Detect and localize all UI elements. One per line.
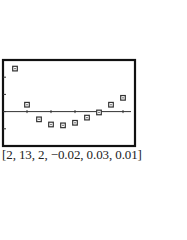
data-point-center <box>26 104 27 105</box>
data-point-center <box>122 97 123 98</box>
data-point-center <box>74 122 75 123</box>
frame-border <box>3 60 135 146</box>
data-point-center <box>86 117 87 118</box>
data-point-center <box>14 68 15 69</box>
window-settings-caption: [2, 13, 2, −0.02, 0.03, 0.01] <box>2 147 142 163</box>
data-points <box>13 66 126 127</box>
data-point-center <box>98 112 99 113</box>
data-point-center <box>50 124 51 125</box>
data-point-center <box>62 125 63 126</box>
plot-frame <box>3 60 135 146</box>
data-point-center <box>38 119 39 120</box>
data-point-center <box>110 104 111 105</box>
